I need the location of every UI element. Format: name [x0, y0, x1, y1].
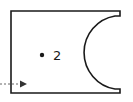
point-label: 2 — [53, 48, 61, 63]
notched-shape-outline — [11, 11, 120, 93]
diagram-canvas: 2 — [0, 0, 133, 102]
point-marker — [40, 53, 44, 57]
arrowhead-icon — [20, 81, 27, 88]
